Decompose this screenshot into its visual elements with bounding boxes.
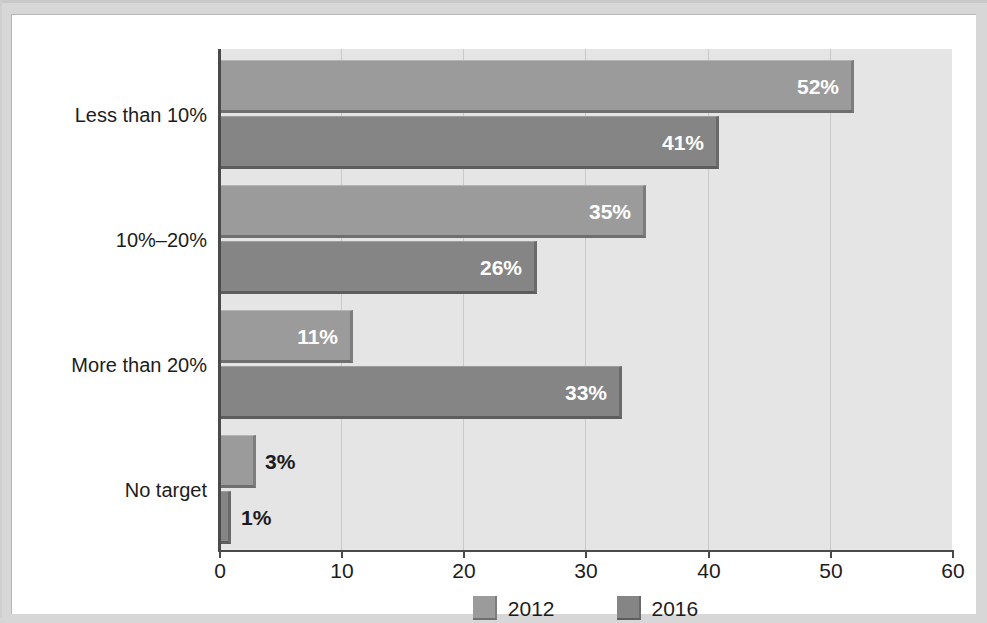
- legend-item-2016[interactable]: 2016: [617, 596, 699, 620]
- tick-mark-10: [341, 551, 343, 558]
- category-label-10-20: 10%–20%: [116, 230, 207, 250]
- tick-mark-0: [219, 551, 221, 558]
- legend-item-2012[interactable]: 2012: [473, 596, 555, 620]
- plot-area: 52% 41% 35% 26% 11% 33% 3% 1%: [219, 49, 952, 550]
- category-label-less-than-10: Less than 10%: [75, 105, 207, 125]
- bar-2016-less-than-10[interactable]: 41%: [219, 116, 719, 169]
- chart-card: Less than 10% 10%–20% More than 20% No t…: [11, 14, 976, 614]
- bar-2016-more-than-20[interactable]: 33%: [219, 366, 622, 419]
- tick-label-60: 60: [941, 560, 964, 581]
- bar-2012-less-than-10[interactable]: 52%: [219, 60, 854, 113]
- bar-value-label-2016-no-target: 1%: [241, 507, 271, 528]
- tick-mark-50: [830, 551, 832, 558]
- chart-legend: 2012 2016: [219, 593, 952, 623]
- gridline-50: [830, 49, 831, 550]
- tick-label-30: 30: [574, 560, 597, 581]
- category-label-no-target: No target: [125, 480, 207, 500]
- tick-label-50: 50: [819, 560, 842, 581]
- bar-value-label: 26%: [480, 256, 522, 277]
- legend-label: 2016: [652, 598, 699, 619]
- bar-2016-10-20[interactable]: 26%: [219, 241, 537, 294]
- bar-value-label: 52%: [797, 75, 839, 96]
- bar-2012-no-target[interactable]: [219, 435, 256, 488]
- bar-2012-10-20[interactable]: 35%: [219, 185, 646, 238]
- y-axis-line: [218, 49, 221, 552]
- tick-mark-40: [708, 551, 710, 558]
- category-axis-labels: Less than 10% 10%–20% More than 20% No t…: [12, 49, 207, 550]
- bar-value-label: 11%: [297, 325, 338, 346]
- bar-2012-more-than-20[interactable]: 11%: [219, 310, 353, 363]
- category-label-more-than-20: More than 20%: [71, 355, 207, 375]
- tick-mark-60: [952, 551, 954, 558]
- tick-label-0: 0: [214, 560, 226, 581]
- legend-swatch-icon: [617, 596, 641, 620]
- legend-swatch-icon: [473, 596, 497, 620]
- bar-value-label-2012-no-target: 3%: [265, 451, 295, 472]
- tick-label-20: 20: [452, 560, 475, 581]
- bar-value-label: 41%: [662, 131, 704, 152]
- legend-label: 2012: [508, 598, 555, 619]
- tick-mark-20: [463, 551, 465, 558]
- tick-label-10: 10: [330, 560, 353, 581]
- bar-value-label: 35%: [589, 200, 631, 221]
- tick-mark-30: [585, 551, 587, 558]
- bar-value-label: 33%: [565, 381, 607, 402]
- tick-label-40: 40: [697, 560, 720, 581]
